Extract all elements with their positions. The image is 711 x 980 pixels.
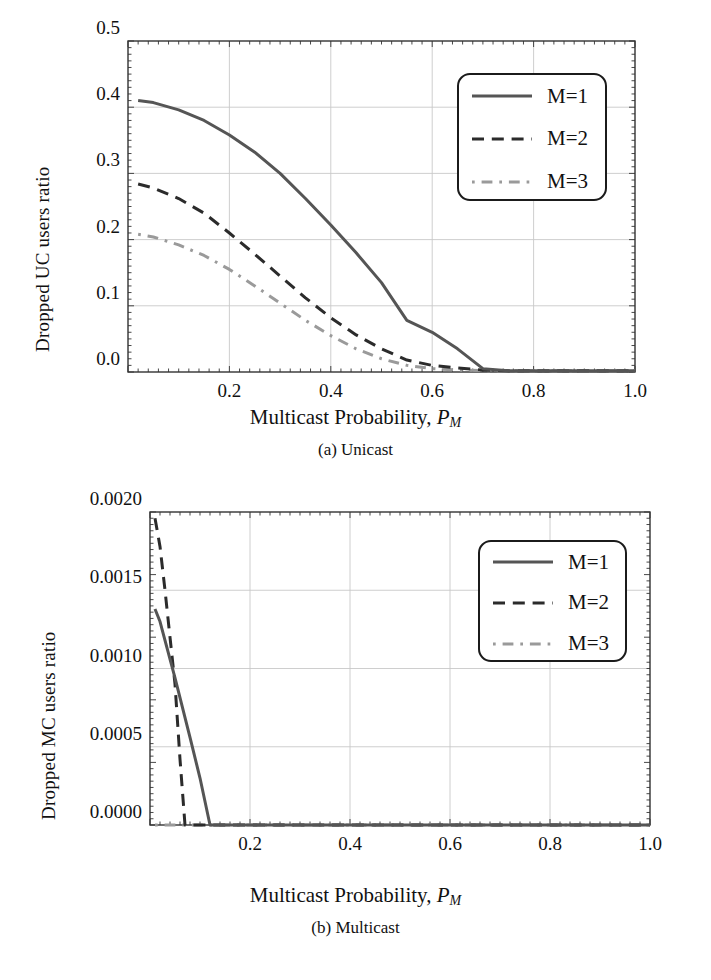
x-axis-label-subscript: M — [450, 415, 462, 430]
x-tick-label: 0.2 — [199, 380, 259, 402]
legend-line-swatch-3 — [471, 174, 533, 190]
y-tick-label: 0.2 — [96, 214, 120, 240]
legend-line-swatch-2 — [492, 595, 554, 611]
legend-item[interactable]: M=2 — [480, 583, 625, 624]
x-tick-label: 0.4 — [320, 833, 380, 855]
x-axis-label-multicast: Multicast Probability, PM — [0, 883, 711, 909]
x-tick-label: 0.6 — [420, 833, 480, 855]
caption-multicast: (b) Multicast — [0, 918, 711, 938]
legend-label: M=1 — [568, 550, 609, 575]
legend-line-swatch-1 — [471, 88, 533, 104]
legend-line-swatch-2 — [471, 131, 533, 147]
chart-panel-unicast: Dropped UC users ratio Multicast Probabi… — [0, 0, 711, 470]
legend-item[interactable]: M=1 — [480, 542, 625, 583]
legend-label: M=2 — [547, 126, 588, 151]
x-tick-label: 0.6 — [402, 380, 462, 402]
x-tick-label: 0.4 — [301, 380, 361, 402]
legend-label: M=3 — [547, 169, 588, 194]
legend-label: M=2 — [568, 590, 609, 615]
y-tick-label: 0.1 — [96, 280, 120, 306]
legend-label: M=3 — [568, 631, 609, 656]
x-axis-label-text: Multicast Probability, — [250, 883, 437, 907]
y-tick-label: 0.4 — [96, 81, 120, 107]
y-axis-label-unicast: Dropped UC users ratio — [32, 167, 54, 352]
x-axis-label-text: Multicast Probability, — [250, 405, 437, 429]
y-tick-label: 0.5 — [96, 15, 120, 41]
legend-line-swatch-1 — [492, 554, 554, 570]
legend-unicast: M=1M=2M=3 — [457, 73, 607, 201]
y-tick-label: 0.0 — [96, 346, 120, 372]
x-tick-label: 0.2 — [220, 833, 280, 855]
caption-unicast: (a) Unicast — [0, 440, 711, 460]
y-axis-label-multicast: Dropped MC users ratio — [38, 631, 60, 820]
x-axis-label-unicast: Multicast Probability, PM — [0, 405, 711, 431]
y-tick-label: 0.0020 — [90, 486, 142, 512]
x-tick-label: 1.0 — [605, 380, 665, 402]
legend-multicast: M=1M=2M=3 — [478, 540, 627, 662]
y-tick-label: 0.0005 — [90, 721, 142, 747]
legend-item[interactable]: M=1 — [459, 75, 605, 118]
legend-item[interactable]: M=3 — [480, 623, 625, 664]
legend-item[interactable]: M=2 — [459, 118, 605, 161]
legend-item[interactable]: M=3 — [459, 160, 605, 203]
x-axis-label-symbol: P — [437, 405, 450, 429]
x-tick-label: 1.0 — [620, 833, 680, 855]
y-tick-label: 0.3 — [96, 147, 120, 173]
y-tick-label: 0.0015 — [90, 564, 142, 590]
x-tick-label: 0.8 — [504, 380, 564, 402]
legend-label: M=1 — [547, 84, 588, 109]
figure-container: Dropped UC users ratio Multicast Probabi… — [0, 0, 711, 980]
y-tick-label: 0.0010 — [90, 643, 142, 669]
legend-line-swatch-3 — [492, 636, 554, 652]
chart-panel-multicast: Dropped MC users ratio Multicast Probabi… — [0, 470, 711, 980]
y-tick-label: 0.0000 — [90, 799, 142, 825]
x-axis-label-subscript: M — [450, 893, 462, 908]
x-axis-label-symbol: P — [437, 883, 450, 907]
x-tick-label: 0.8 — [520, 833, 580, 855]
